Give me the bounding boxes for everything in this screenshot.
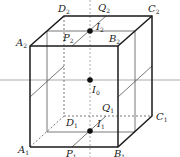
label-I2: I2 [95,21,104,33]
label-Q2: Q2 [98,2,110,14]
cube-diagram: D2 Q2 C2 A2 P2 I2 B2 I0 Q1 D1 C1 I1 A1 P… [0,0,180,157]
label-C1: C1 [156,111,167,123]
label-P2: P2 [62,32,74,44]
label-A1: A1 [17,144,29,156]
point-I0 [87,77,93,83]
label-B1: B1 [113,148,125,157]
label-B2: B2 [108,33,120,45]
label-D2: D2 [57,3,70,15]
point-I1 [87,128,93,134]
label-I1: I1 [96,118,105,130]
label-D1: D1 [65,117,78,129]
label-P1: P1 [65,148,77,157]
label-A2: A2 [15,37,27,49]
label-I0: I0 [91,84,100,96]
label-C2: C2 [148,3,160,15]
point-I2 [87,28,93,34]
label-Q1: Q1 [102,102,114,114]
